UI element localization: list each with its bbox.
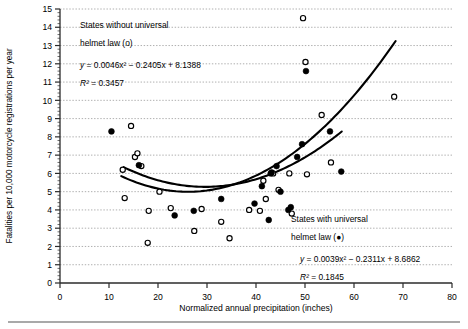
x-tick-label: 20 — [153, 292, 163, 302]
data-point-with-helmet-law — [288, 204, 294, 210]
y-tick-label: 7 — [47, 150, 52, 160]
legend-with-line1: States with universal — [291, 214, 368, 224]
y-tick-label: 14 — [42, 22, 52, 32]
y-tick-label: 15 — [42, 4, 52, 14]
data-point-with-helmet-law — [218, 196, 224, 202]
x-axis-title: Normalized annual precipitation (inches) — [179, 303, 332, 313]
data-point-with-helmet-law — [294, 154, 300, 160]
data-point-without-helmet-law — [300, 16, 305, 21]
data-point-without-helmet-law — [128, 123, 133, 128]
scatter-plot: 0123456789101112131415 01020304050607080… — [0, 0, 468, 329]
x-tick-label: 30 — [202, 292, 212, 302]
x-tick-label: 70 — [398, 292, 408, 302]
y-tick-label: 2 — [47, 242, 52, 252]
x-tick-label: 0 — [58, 292, 63, 302]
y-tick-label: 6 — [47, 169, 52, 179]
data-point-with-helmet-law — [191, 208, 197, 214]
y-tick-label: 3 — [47, 223, 52, 233]
data-point-without-helmet-law — [122, 195, 127, 200]
data-point-without-helmet-law — [319, 112, 324, 117]
y-tick-label: 8 — [47, 132, 52, 142]
data-point-without-helmet-law — [247, 207, 252, 212]
data-point-without-helmet-law — [135, 151, 140, 156]
r2-value: = 0.1845 — [309, 272, 345, 282]
x-tick-label: 10 — [104, 292, 114, 302]
data-point-with-helmet-law — [109, 128, 115, 134]
data-point-without-helmet-law — [392, 94, 397, 99]
data-point-without-helmet-law — [168, 206, 173, 211]
data-point-without-helmet-law — [287, 171, 292, 176]
chart-background — [0, 0, 468, 329]
data-point-with-helmet-law — [278, 189, 284, 195]
x-tick-label: 50 — [300, 292, 310, 302]
chart-figure: 0123456789101112131415 01020304050607080… — [0, 0, 468, 329]
legend-with-line2: helmet law (●) — [291, 232, 344, 242]
data-point-with-helmet-law — [299, 141, 305, 147]
data-point-without-helmet-law — [157, 189, 162, 194]
data-point-without-helmet-law — [261, 178, 266, 183]
data-point-with-helmet-law — [269, 170, 275, 176]
legend-without-equation: y = 0.0046x² − 0.2405x + 8.1388 — [79, 60, 201, 70]
legend-without-r2: R² = 0.3457 — [80, 78, 124, 88]
data-point-with-helmet-law — [327, 128, 333, 134]
data-point-with-helmet-law — [259, 183, 265, 189]
x-tick-label: 40 — [251, 292, 261, 302]
y-tick-label: 9 — [47, 114, 52, 124]
equation-body: = 0.0039x² − 0.2311x + 8.6862 — [304, 254, 420, 264]
data-point-without-helmet-law — [199, 206, 204, 211]
data-point-without-helmet-law — [328, 160, 333, 165]
legend-without-line1: States without universal — [80, 20, 169, 30]
data-point-without-helmet-law — [263, 196, 268, 201]
data-point-with-helmet-law — [136, 162, 142, 168]
y-tick-label: 5 — [47, 187, 52, 197]
data-point-without-helmet-law — [120, 167, 125, 172]
equation-body: = 0.0046x² − 0.2405x + 8.1388 — [84, 60, 201, 70]
y-tick-label: 4 — [47, 205, 52, 215]
y-tick-label: 0 — [47, 278, 52, 288]
data-point-without-helmet-law — [146, 208, 151, 213]
r2-value: = 0.3457 — [89, 78, 125, 88]
y-tick-label: 13 — [42, 41, 52, 51]
data-point-without-helmet-law — [303, 59, 308, 64]
data-point-with-helmet-law — [266, 217, 272, 223]
x-tick-label: 80 — [447, 292, 457, 302]
data-point-without-helmet-law — [219, 219, 224, 224]
legend-with-r2: R² = 0.1845 — [300, 272, 344, 282]
data-point-with-helmet-law — [274, 163, 280, 169]
y-tick-label: 10 — [42, 96, 52, 106]
data-point-with-helmet-law — [172, 213, 178, 219]
legend-with-equation: y = 0.0039x² − 0.2311x + 8.6862 — [299, 254, 421, 264]
data-point-without-helmet-law — [227, 236, 232, 241]
data-point-without-helmet-law — [304, 172, 309, 177]
data-point-without-helmet-law — [192, 228, 197, 233]
legend-without-line2: helmet law (o) — [80, 38, 133, 48]
y-axis-title: Fatalities per 10,000 motorcycle registr… — [5, 48, 14, 243]
y-tick-label: 12 — [42, 59, 52, 69]
y-tick-label: 1 — [47, 260, 52, 270]
y-tick-label: 11 — [43, 77, 52, 87]
data-point-with-helmet-law — [252, 201, 258, 207]
data-point-without-helmet-law — [257, 208, 262, 213]
x-tick-label: 60 — [349, 292, 359, 302]
data-point-with-helmet-law — [303, 68, 309, 74]
data-point-without-helmet-law — [145, 240, 150, 245]
data-point-with-helmet-law — [338, 169, 344, 175]
